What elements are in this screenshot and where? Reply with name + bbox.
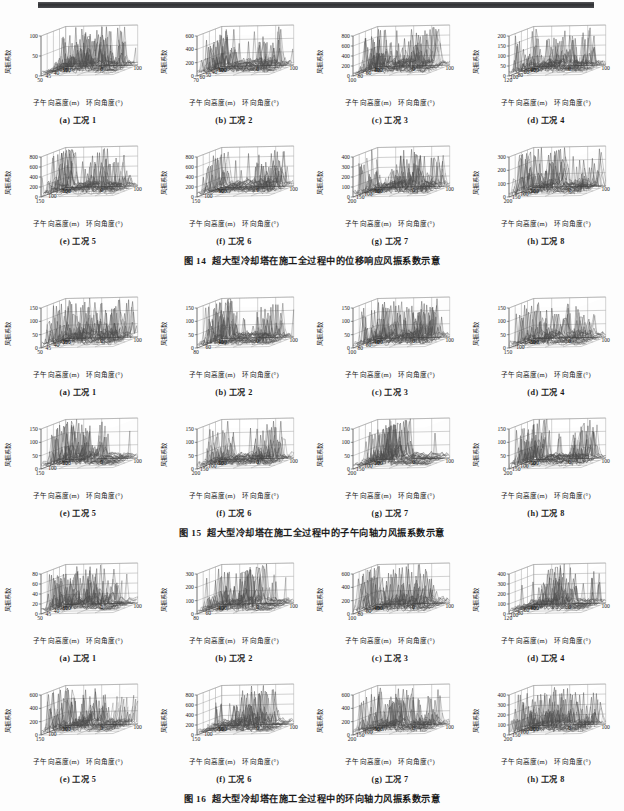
svg-text:50: 50 bbox=[500, 332, 506, 338]
svg-text:50: 50 bbox=[37, 349, 43, 355]
plot-area: 600400200020015010050-1000100风振系数 bbox=[315, 677, 465, 755]
y-axis-label: 环向角度(°) bbox=[86, 637, 122, 644]
y-axis-label: 环向角度(°) bbox=[398, 99, 434, 106]
svg-text:150: 150 bbox=[504, 349, 513, 355]
svg-text:600: 600 bbox=[185, 33, 194, 39]
y-axis-label: 环向角度(°) bbox=[554, 371, 590, 378]
y-axis-label: 环向角度(°) bbox=[242, 99, 278, 106]
plot-area: 800600400200015010050-1000100风振系数 bbox=[159, 139, 309, 217]
y-axis-label: 环向角度(°) bbox=[554, 220, 590, 227]
subplot-caption: (a) 工况 1 bbox=[60, 113, 97, 125]
subplot-row: 800600400200015010050-1000100风振系数子午向高度(m… bbox=[0, 139, 624, 246]
subplot-caption: (c) 工况 3 bbox=[372, 113, 408, 125]
svg-text:100: 100 bbox=[185, 598, 194, 604]
svg-text:-100: -100 bbox=[373, 605, 383, 611]
axis-caption: 子午向高度(m)环向角度(°) bbox=[345, 218, 435, 228]
x-axis-label: 子午向高度(m) bbox=[345, 758, 391, 765]
svg-text:100: 100 bbox=[48, 465, 57, 471]
subplot-1: 80604020050454035-1000100风振系数子午向高度(m)环向角… bbox=[0, 556, 156, 663]
svg-text:100: 100 bbox=[29, 439, 38, 445]
plot-area: 15010050050454035-1000100风振系数 bbox=[3, 290, 153, 368]
svg-text:风振系数: 风振系数 bbox=[4, 49, 12, 74]
subplot-3: 150100500100806040-1000100风振系数子午向高度(m)环向… bbox=[312, 290, 468, 397]
y-axis-label: 环向角度(°) bbox=[86, 758, 122, 765]
subplot-caption: (g) 工况 7 bbox=[372, 234, 409, 246]
svg-text:100: 100 bbox=[602, 65, 611, 71]
svg-text:100: 100 bbox=[204, 731, 213, 737]
svg-text:100: 100 bbox=[446, 458, 455, 464]
svg-text:100: 100 bbox=[497, 722, 506, 728]
axis-caption: 子午向高度(m)环向角度(°) bbox=[501, 490, 591, 500]
x-axis-label: 子午向高度(m) bbox=[501, 637, 547, 644]
subplot-row: 15010050050454035-1000100风振系数子午向高度(m)环向角… bbox=[0, 290, 624, 397]
axis-caption: 子午向高度(m)环向角度(°) bbox=[33, 756, 123, 766]
svg-text:400: 400 bbox=[341, 584, 350, 590]
svg-text:150: 150 bbox=[185, 305, 194, 311]
svg-text:100: 100 bbox=[341, 439, 350, 445]
x-axis-label: 子午向高度(m) bbox=[33, 637, 79, 644]
surface-plot-svg: 150100500100806040-1000100风振系数 bbox=[315, 290, 465, 368]
surface-plot-svg: 4003002001000120100806040-1000100风振系数 bbox=[471, 556, 621, 634]
plot-area: 150100500806040-1000100风振系数 bbox=[159, 290, 309, 368]
svg-text:风振系数: 风振系数 bbox=[316, 170, 324, 195]
svg-text:200: 200 bbox=[185, 60, 194, 66]
axis-caption: 子午向高度(m)环向角度(°) bbox=[33, 97, 123, 107]
svg-text:100: 100 bbox=[520, 191, 529, 197]
svg-text:风振系数: 风振系数 bbox=[472, 49, 480, 74]
subplot-5: 600400200015010050-1000100风振系数子午向高度(m)环向… bbox=[0, 677, 156, 784]
axis-caption: 子午向高度(m)环向角度(°) bbox=[189, 97, 279, 107]
subplot-caption: (c) 工况 3 bbox=[372, 385, 408, 397]
x-axis-label: 子午向高度(m) bbox=[189, 637, 235, 644]
surface-plot-svg: 150100500806040-1000100风振系数 bbox=[159, 290, 309, 368]
svg-text:0: 0 bbox=[412, 187, 415, 193]
subplot-7: 400300200100020015010050-1000100风振系数子午向高… bbox=[312, 139, 468, 246]
subplot-caption: (c) 工况 3 bbox=[372, 651, 408, 663]
axis-caption: 子午向高度(m)环向角度(°) bbox=[345, 369, 435, 379]
svg-text:200: 200 bbox=[185, 722, 194, 728]
svg-text:60: 60 bbox=[366, 608, 372, 614]
svg-text:100: 100 bbox=[134, 337, 143, 343]
subplot-caption: (f) 工况 6 bbox=[216, 506, 252, 518]
y-axis-label: 环向角度(°) bbox=[86, 371, 122, 378]
subplot-8: 300200100020015010050-1000100风振系数子午向高度(m… bbox=[468, 139, 624, 246]
svg-text:风振系数: 风振系数 bbox=[4, 321, 12, 346]
svg-text:100: 100 bbox=[290, 186, 299, 192]
svg-text:-100: -100 bbox=[373, 460, 383, 466]
scan-artifact-bar bbox=[38, 2, 594, 8]
subplot-5: 800600400200015010050-1000100风振系数子午向高度(m… bbox=[0, 139, 156, 246]
svg-text:150: 150 bbox=[36, 736, 45, 742]
y-axis-label: 环向角度(°) bbox=[398, 220, 434, 227]
x-axis-label: 子午向高度(m) bbox=[33, 758, 79, 765]
subplot-caption: (h) 工况 8 bbox=[527, 506, 564, 518]
svg-text:800: 800 bbox=[341, 33, 350, 39]
axis-caption: 子午向高度(m)环向角度(°) bbox=[345, 756, 435, 766]
svg-text:0: 0 bbox=[568, 604, 571, 610]
surface-plot-svg: 15010050020015010050-1000100风振系数 bbox=[159, 411, 309, 489]
svg-text:200: 200 bbox=[497, 167, 506, 173]
subplot-5: 15010050015010050-1000100风振系数子午向高度(m)环向角… bbox=[0, 411, 156, 518]
figure-number: 图 15 bbox=[179, 528, 201, 538]
surface-plot-svg: 8006004002000100806040-1000100风振系数 bbox=[315, 18, 465, 96]
svg-text:100: 100 bbox=[185, 318, 194, 324]
svg-text:300: 300 bbox=[497, 702, 506, 708]
surface-plot-svg: 15010050015010050-1000100风振系数 bbox=[3, 411, 153, 489]
svg-text:50: 50 bbox=[344, 453, 350, 459]
svg-text:150: 150 bbox=[192, 198, 201, 204]
svg-text:200: 200 bbox=[185, 184, 194, 190]
y-axis-label: 环向角度(°) bbox=[398, 371, 434, 378]
svg-text:600: 600 bbox=[185, 702, 194, 708]
figure-15: 15010050050454035-1000100风振系数子午向高度(m)环向角… bbox=[0, 290, 624, 539]
svg-text:100: 100 bbox=[497, 318, 506, 324]
subplot-row: 600400200015010050-1000100风振系数子午向高度(m)环向… bbox=[0, 677, 624, 784]
plot-area: 800600400200015010050-1000100风振系数 bbox=[159, 677, 309, 755]
svg-text:0: 0 bbox=[256, 604, 259, 610]
svg-text:300: 300 bbox=[185, 571, 194, 577]
axis-caption: 子午向高度(m)环向角度(°) bbox=[501, 218, 591, 228]
x-axis-label: 子午向高度(m) bbox=[501, 758, 547, 765]
surface-plot-svg: 600400200020015010050-1000100风振系数 bbox=[315, 677, 465, 755]
x-axis-label: 子午向高度(m) bbox=[501, 371, 547, 378]
subplot-caption: (e) 工况 5 bbox=[60, 506, 96, 518]
svg-text:100: 100 bbox=[602, 337, 611, 343]
svg-text:600: 600 bbox=[29, 692, 38, 698]
plot-area: 400300200100020015010050-1000100风振系数 bbox=[471, 677, 621, 755]
